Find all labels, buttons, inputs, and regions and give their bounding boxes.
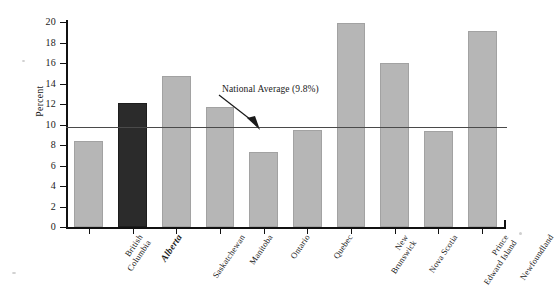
y-axis-tick-label: 10 xyxy=(46,118,56,131)
y-axis-tick: 16 xyxy=(60,63,67,64)
y-axis-tick-label: 2 xyxy=(51,200,56,213)
y-axis-tick-label: 8 xyxy=(51,138,56,151)
bar xyxy=(337,23,366,227)
y-axis-tick-label: 20 xyxy=(46,15,56,28)
bar xyxy=(380,63,409,227)
y-axis-tick-label: 4 xyxy=(51,179,56,192)
bar xyxy=(424,131,453,227)
bar xyxy=(118,103,147,227)
x-axis-category-label: Saskatchewan xyxy=(212,233,248,280)
y-axis-tick-label: 14 xyxy=(46,77,56,90)
y-axis-tick: 10 xyxy=(60,125,67,126)
x-axis-tick xyxy=(395,227,396,234)
y-axis-title: Percent xyxy=(35,85,45,116)
bars-container xyxy=(67,22,504,227)
x-axis-category-label: Manitoba xyxy=(248,233,275,267)
x-axis-category-label: NewBrunswick xyxy=(381,233,418,276)
x-axis-tick xyxy=(220,227,221,234)
x-axis-tick xyxy=(307,227,308,234)
y-axis-tick-label: 0 xyxy=(51,220,56,233)
scan-speck xyxy=(12,272,16,274)
x-axis-tick xyxy=(351,227,352,234)
y-axis-tick: 4 xyxy=(60,186,67,187)
y-axis-tick: 12 xyxy=(60,104,67,105)
x-axis-category-label: BritishColumbia xyxy=(117,233,152,273)
x-axis-category-label: Alberta xyxy=(159,233,184,264)
scan-speck xyxy=(519,232,522,235)
national-average-line-extension xyxy=(504,127,507,128)
y-axis-tick-label: 12 xyxy=(46,97,56,110)
y-axis-tick: 0 xyxy=(60,227,67,228)
x-axis-tick xyxy=(482,227,483,234)
y-axis-tick: 6 xyxy=(60,166,67,167)
x-axis-category-label: Ontario xyxy=(289,233,312,261)
x-axis-category-label: Quebec xyxy=(332,233,355,261)
y-axis-tick: 18 xyxy=(60,43,67,44)
x-axis-end-cap xyxy=(504,220,506,229)
x-axis-tick xyxy=(438,227,439,234)
y-axis-tick-label: 16 xyxy=(46,56,56,69)
x-axis-tick xyxy=(89,227,90,234)
x-axis-category-label: Nova Scotia xyxy=(427,233,459,275)
x-axis-tick xyxy=(133,227,134,234)
bar xyxy=(162,76,191,227)
bar xyxy=(468,31,497,227)
bar xyxy=(293,130,322,227)
y-axis-tick: 2 xyxy=(60,207,67,208)
y-axis-tick-label: 6 xyxy=(51,159,56,172)
bar xyxy=(249,152,278,227)
y-axis-tick: 8 xyxy=(60,145,67,146)
annotation-arrow-icon xyxy=(215,92,275,134)
scan-speck xyxy=(22,60,25,62)
national-average-line xyxy=(66,127,506,128)
bar xyxy=(74,141,103,227)
y-axis-tick: 20 xyxy=(60,22,67,23)
y-axis-tick-label: 18 xyxy=(46,36,56,49)
y-axis-tick: 14 xyxy=(60,84,67,85)
x-axis-category-label: Newfoundland xyxy=(518,233,555,282)
x-axis-category-label: PrinceEdward Island xyxy=(474,233,519,287)
